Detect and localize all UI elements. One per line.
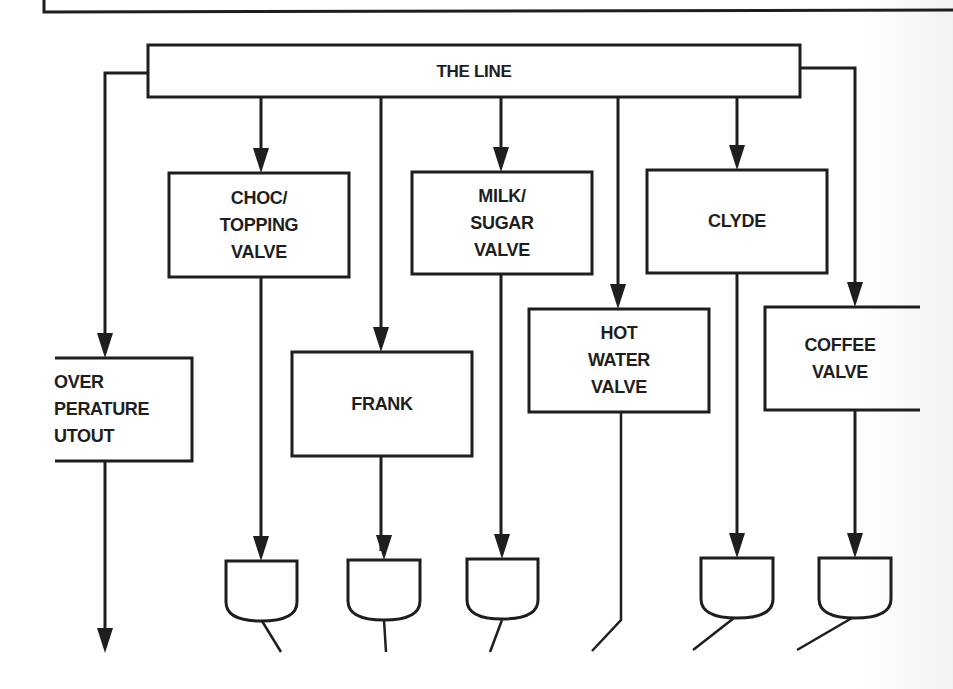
frank-bowl-outlet: [384, 620, 386, 652]
arrowhead-over-temp: [97, 333, 113, 358]
the-line-label: THE LINE: [148, 45, 800, 97]
arrowhead-choc: [253, 148, 269, 173]
hot-water-valve-label: HOT WATER VALVE: [529, 309, 709, 412]
arrowhead-over-temp-out: [97, 628, 113, 653]
clyde-bowl: [701, 558, 773, 618]
coffee-bowl-outlet: [797, 618, 852, 650]
line-hot-water-out: [592, 412, 621, 651]
arrowhead-milk: [493, 147, 509, 172]
top-cropped-box: [44, 0, 953, 12]
arrowhead-frank-bowl: [376, 535, 392, 560]
arrowhead-hot-water: [610, 284, 626, 309]
line-to-over-temp: [105, 73, 148, 350]
over-temperature-cutout-label: OVER PERATURE UTOUT: [40, 358, 190, 461]
coffee-bowl: [819, 558, 891, 618]
arrowhead-clyde-bowl: [729, 533, 745, 558]
frank-bowl: [348, 560, 420, 620]
arrowhead-choc-bowl: [253, 536, 269, 561]
milk-sugar-bowl: [467, 559, 538, 619]
arrowhead-coffee: [847, 282, 863, 307]
arrowhead-milk-bowl: [494, 534, 510, 559]
milk-bowl-outlet: [490, 620, 502, 652]
milk-sugar-valve-label: MILK/ SUGAR VALVE: [412, 172, 592, 274]
arrowhead-clyde: [729, 145, 745, 170]
arrowhead-frank: [373, 327, 389, 352]
arrowhead-coffee-bowl: [847, 533, 863, 558]
choc-bowl-outlet: [262, 621, 281, 652]
clyde-label: CLYDE: [647, 170, 827, 273]
clyde-bowl-outlet: [693, 618, 734, 650]
frank-label: FRANK: [292, 352, 472, 456]
choc-topping-bowl: [226, 561, 297, 621]
choc-topping-valve-label: CHOC/ TOPPING VALVE: [169, 173, 349, 277]
coffee-valve-label: COFFEE VALVE: [765, 307, 915, 410]
